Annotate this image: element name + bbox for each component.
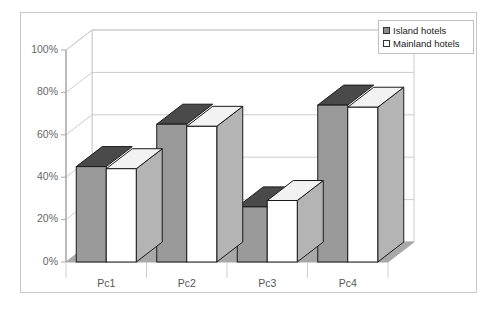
bar-mainland-hotels-front-face[interactable] (106, 169, 136, 262)
y-axis-tick-label: 20% (37, 212, 58, 224)
chart-container: 0%20%40%60%80%100%Pc4Pc3Pc2Pc1 Island ho… (0, 0, 496, 309)
legend-label-mainland: Mainland hotels (393, 38, 460, 49)
legend-item-island: Island hotels (383, 25, 469, 36)
bar-island-hotels-front-face[interactable] (76, 167, 106, 262)
plot-area: 0%20%40%60%80%100%Pc4Pc3Pc2Pc1 (31, 30, 414, 289)
bar-mainland-hotels-front-face[interactable] (348, 107, 378, 262)
y-axis-tick-label: 80% (37, 85, 58, 97)
bar-mainland-hotels-front-face[interactable] (267, 201, 297, 262)
y-axis-tick-label: 40% (37, 170, 58, 182)
y-axis-tick-label: 60% (37, 128, 58, 140)
legend-item-mainland: Mainland hotels (383, 38, 469, 49)
x-axis-category-label: Pc1 (97, 277, 115, 289)
bar-mainland-hotels-side-face (378, 87, 404, 262)
legend-swatch-island-icon (383, 27, 390, 34)
legend-label-island: Island hotels (393, 25, 446, 36)
bar-mainland-hotels-front-face[interactable] (187, 126, 217, 262)
chart-legend: Island hotels Mainland hotels (378, 20, 474, 54)
y-axis-tick-label: 100% (31, 43, 58, 55)
x-axis-category-label: Pc3 (258, 277, 276, 289)
bar-mainland-hotels-side-face (217, 106, 243, 262)
y-axis-tick-label: 0% (43, 255, 58, 267)
x-axis-category-label: Pc2 (178, 277, 196, 289)
legend-swatch-mainland-icon (383, 40, 390, 47)
x-axis-category-label: Pc4 (339, 277, 357, 289)
